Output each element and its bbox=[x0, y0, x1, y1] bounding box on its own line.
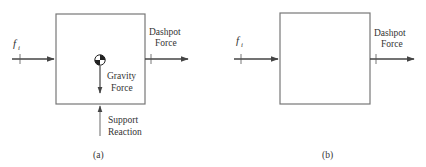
support-label-line1: Support bbox=[108, 115, 138, 125]
dashpot-label-line2-a: Force bbox=[155, 38, 177, 48]
gravity-label-line1: Gravity bbox=[107, 71, 136, 81]
input-force-subscript-a: i bbox=[18, 44, 20, 52]
panel-b: f i Dashpot Force (b) bbox=[234, 13, 414, 161]
mass-block-b bbox=[280, 13, 370, 104]
caption-b: (b) bbox=[322, 150, 333, 161]
input-force-arrow-b bbox=[234, 54, 278, 64]
dashpot-force-arrow-a bbox=[145, 54, 188, 64]
dashpot-label-line1-a: Dashpot bbox=[149, 27, 181, 37]
caption-a: (a) bbox=[93, 150, 104, 161]
dashpot-label-line1-b: Dashpot bbox=[374, 28, 406, 38]
center-of-mass-icon bbox=[95, 55, 105, 65]
input-force-arrow-a bbox=[12, 54, 54, 64]
input-force-subscript-b: i bbox=[241, 41, 243, 49]
dashpot-force-arrow-b bbox=[370, 54, 414, 64]
dashpot-label-line2-b: Force bbox=[381, 39, 403, 49]
gravity-label-line2: Force bbox=[111, 83, 133, 93]
free-body-diagram: f i Dashpot Force Gravity Force Support … bbox=[0, 0, 426, 167]
support-label-line2: Reaction bbox=[108, 127, 142, 137]
panel-a: f i Dashpot Force Gravity Force Support … bbox=[12, 14, 188, 161]
